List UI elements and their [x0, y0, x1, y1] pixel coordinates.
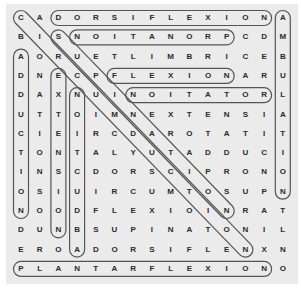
grid-cell[interactable]: T [199, 125, 217, 143]
grid-cell[interactable]: T [218, 86, 236, 104]
grid-cell[interactable]: S [236, 106, 254, 124]
grid-cell[interactable]: B [180, 48, 198, 66]
grid-cell[interactable]: A [12, 48, 30, 66]
grid-cell[interactable]: S [143, 163, 161, 181]
grid-cell[interactable]: N [255, 163, 273, 181]
grid-cell[interactable]: E [199, 106, 217, 124]
grid-cell[interactable]: C [236, 28, 254, 46]
grid-cell[interactable]: C [255, 144, 273, 162]
grid-cell[interactable]: P [12, 260, 30, 278]
grid-cell[interactable]: L [162, 260, 180, 278]
grid-cell[interactable]: B [274, 48, 292, 66]
grid-cell[interactable]: A [180, 144, 198, 162]
grid-cell[interactable]: A [106, 260, 124, 278]
grid-cell[interactable]: A [274, 106, 292, 124]
grid-cell[interactable]: O [49, 202, 67, 220]
grid-cell[interactable]: I [31, 28, 49, 46]
grid-cell[interactable]: T [162, 144, 180, 162]
grid-cell[interactable]: N [31, 163, 49, 181]
grid-cell[interactable]: P [124, 221, 142, 239]
grid-cell[interactable]: D [87, 241, 105, 259]
grid-cell[interactable]: N [68, 260, 86, 278]
grid-cell[interactable]: A [31, 86, 49, 104]
grid-cell[interactable]: D [12, 86, 30, 104]
grid-cell[interactable]: T [68, 144, 86, 162]
grid-cell[interactable]: A [68, 241, 86, 259]
grid-cell[interactable]: N [274, 183, 292, 201]
grid-cell[interactable]: I [143, 48, 161, 66]
grid-cell[interactable]: E [180, 9, 198, 27]
grid-cell[interactable]: S [87, 221, 105, 239]
grid-cell[interactable]: S [31, 183, 49, 201]
grid-cell[interactable]: I [255, 106, 273, 124]
grid-cell[interactable]: I [199, 202, 217, 220]
grid-cell[interactable]: D [124, 125, 142, 143]
grid-cell[interactable]: I [218, 9, 236, 27]
grid-cell[interactable]: R [199, 28, 217, 46]
grid-cell[interactable]: X [162, 67, 180, 85]
grid-cell[interactable]: O [68, 106, 86, 124]
grid-cell[interactable]: R [255, 67, 273, 85]
grid-cell[interactable]: D [255, 28, 273, 46]
grid-cell[interactable]: S [49, 163, 67, 181]
grid-cell[interactable]: T [274, 202, 292, 220]
grid-cell[interactable]: F [143, 260, 161, 278]
grid-cell[interactable]: A [49, 260, 67, 278]
grid-cell[interactable]: A [87, 144, 105, 162]
grid-cell[interactable]: X [143, 202, 161, 220]
grid-cell[interactable]: L [274, 86, 292, 104]
grid-cell[interactable]: F [106, 67, 124, 85]
grid-cell[interactable]: C [68, 163, 86, 181]
grid-cell[interactable]: O [87, 28, 105, 46]
grid-cell[interactable]: U [143, 183, 161, 201]
grid-cell[interactable]: R [255, 86, 273, 104]
grid-cell[interactable]: E [87, 48, 105, 66]
grid-cell[interactable]: C [12, 125, 30, 143]
grid-cell[interactable]: I [143, 221, 161, 239]
grid-cell[interactable]: I [106, 28, 124, 46]
grid-cell[interactable]: T [236, 125, 254, 143]
grid-cell[interactable]: A [199, 86, 217, 104]
grid-cell[interactable]: N [236, 241, 254, 259]
grid-cell[interactable]: O [236, 163, 254, 181]
grid-cell[interactable]: E [124, 202, 142, 220]
grid-cell[interactable]: T [199, 221, 217, 239]
grid-cell[interactable]: P [218, 28, 236, 46]
grid-cell[interactable]: C [162, 163, 180, 181]
grid-cell[interactable]: U [143, 144, 161, 162]
grid-cell[interactable]: I [68, 125, 86, 143]
grid-cell[interactable]: B [68, 221, 86, 239]
grid-cell[interactable]: O [106, 163, 124, 181]
grid-cell[interactable]: M [162, 48, 180, 66]
grid-cell[interactable]: T [180, 86, 198, 104]
grid-cell[interactable]: O [68, 9, 86, 27]
grid-cell[interactable]: R [124, 163, 142, 181]
grid-cell[interactable]: O [274, 163, 292, 181]
grid-cell[interactable]: R [87, 9, 105, 27]
grid-cell[interactable]: U [68, 48, 86, 66]
grid-cell[interactable]: Y [124, 144, 142, 162]
grid-cell[interactable]: N [218, 106, 236, 124]
grid-cell[interactable]: R [49, 48, 67, 66]
grid-cell[interactable]: C [236, 48, 254, 66]
grid-cell[interactable]: C [12, 9, 30, 27]
grid-cell[interactable]: O [199, 67, 217, 85]
grid-cell[interactable]: D [218, 144, 236, 162]
grid-cell[interactable]: U [31, 221, 49, 239]
grid-cell[interactable]: O [106, 241, 124, 259]
grid-cell[interactable]: O [236, 86, 254, 104]
grid-cell[interactable]: S [106, 9, 124, 27]
grid-cell[interactable]: L [106, 144, 124, 162]
grid-cell[interactable]: I [255, 221, 273, 239]
grid-cell[interactable]: X [255, 241, 273, 259]
grid-cell[interactable]: S [218, 183, 236, 201]
grid-cell[interactable]: T [106, 48, 124, 66]
grid-cell[interactable]: O [12, 183, 30, 201]
grid-cell[interactable]: R [218, 163, 236, 181]
grid-cell[interactable]: M [106, 106, 124, 124]
grid-cell[interactable]: O [49, 241, 67, 259]
grid-cell[interactable]: N [255, 260, 273, 278]
grid-cell[interactable]: A [218, 125, 236, 143]
grid-cell[interactable]: O [236, 260, 254, 278]
grid-cell[interactable]: T [87, 260, 105, 278]
